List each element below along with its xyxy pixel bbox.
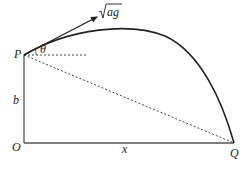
trajectory-curve: [24, 29, 234, 143]
label-o: O: [12, 140, 21, 154]
pq-dotted-line: [24, 55, 234, 143]
label-b: b: [13, 93, 19, 107]
label-p: P: [13, 47, 22, 61]
velocity-label: ag: [99, 4, 122, 19]
label-x: x: [121, 142, 128, 156]
label-theta: θ: [40, 42, 46, 56]
angle-arc: [35, 49, 36, 55]
label-q: Q: [230, 146, 239, 160]
projectile-diagram: P θ b O x Q ag: [0, 0, 251, 173]
svg-text:ag: ag: [107, 5, 119, 19]
